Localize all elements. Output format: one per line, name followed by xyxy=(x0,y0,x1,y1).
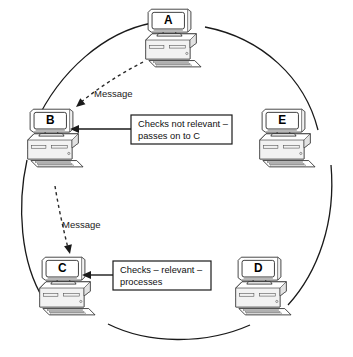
message-arrow-b-to-c: Message xyxy=(55,186,101,255)
message-label-b-to-c: Message xyxy=(62,219,101,230)
computer-label-c: C xyxy=(58,261,67,275)
callout-c-line1: Checks – relevant – xyxy=(120,265,203,275)
callout-b: Checks not relevant – passes on to C xyxy=(70,115,232,144)
callout-c: Checks – relevant – processes xyxy=(82,261,211,290)
computer-node-b[interactable]: B xyxy=(28,109,83,167)
computer-label-d: D xyxy=(254,261,263,275)
diagram-canvas: Message Message A B E C xyxy=(0,0,353,357)
computer-label-a: A xyxy=(164,13,173,27)
computer-node-d[interactable]: D xyxy=(236,257,291,315)
network-ring-diagram: Message Message A B E C xyxy=(0,0,353,357)
computer-node-c[interactable]: C xyxy=(40,257,95,315)
callout-b-line1: Checks not relevant – xyxy=(138,119,229,129)
message-label-a-to-b: Message xyxy=(94,88,133,99)
message-arrow-a-to-b: Message xyxy=(73,62,143,110)
computer-node-a[interactable]: A xyxy=(146,9,201,67)
ring-arc-c-to-b xyxy=(22,160,44,300)
computer-label-b: B xyxy=(46,113,55,127)
callout-b-line2: passes on to C xyxy=(138,131,200,141)
callout-c-line2: processes xyxy=(120,277,163,287)
computer-label-e: E xyxy=(278,113,286,127)
computer-node-e[interactable]: E xyxy=(260,109,315,167)
ring-arc-d-to-c xyxy=(108,324,250,340)
ring-arc-e-to-d xyxy=(288,165,332,305)
